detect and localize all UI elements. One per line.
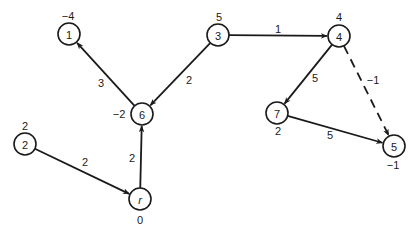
node-potential-label: −1 — [387, 159, 400, 171]
edge-4-to-7 — [285, 45, 333, 104]
node-4: 44 — [328, 11, 350, 47]
node-potential-label: 5 — [216, 11, 222, 23]
edge-3-to-4 — [229, 35, 327, 36]
node-label: 5 — [391, 141, 397, 153]
edge-weight-label: 2 — [186, 74, 192, 86]
node-potential-label: −2 — [113, 108, 126, 120]
edge-weight-label: −1 — [367, 74, 380, 86]
node-1: 1−4 — [58, 10, 80, 45]
node-label: 4 — [336, 31, 342, 43]
edge-weight-label: 5 — [312, 72, 318, 84]
edge-weight-label: 2 — [129, 152, 135, 164]
node-label: 2 — [22, 139, 28, 151]
edge-weight-label: 3 — [98, 77, 104, 89]
edge-r-to-6 — [140, 126, 141, 188]
node-potential-label: −4 — [62, 10, 75, 22]
edge-weight-label: 1 — [275, 23, 281, 35]
node-label: 3 — [215, 30, 221, 42]
node-6: 6−2 — [113, 103, 153, 125]
edge-4-to-5 — [344, 46, 389, 135]
node-2: 22 — [14, 120, 36, 155]
node-potential-label: 2 — [275, 125, 281, 137]
edge-3-to-6 — [150, 43, 210, 105]
node-potential-label: 0 — [137, 214, 143, 226]
node-7: 72 — [266, 102, 288, 137]
edges-layer — [35, 35, 389, 194]
edge-weight-label: 2 — [82, 156, 88, 168]
node-r: r0 — [129, 188, 151, 226]
edge-6-to-1 — [77, 43, 134, 106]
edge-weight-label: 5 — [327, 129, 333, 141]
node-5: 5−1 — [383, 135, 405, 171]
nodes-layer: 1−435446−272225−1r0 — [14, 10, 405, 226]
node-potential-label: 4 — [336, 11, 342, 23]
node-potential-label: 2 — [22, 120, 28, 132]
node-3: 35 — [207, 11, 229, 46]
graph-diagram: 3215−1522 1−435446−272225−1r0 — [0, 0, 416, 234]
node-label: 1 — [66, 29, 72, 41]
edge-7-to-5 — [288, 116, 383, 143]
node-label: 6 — [139, 109, 145, 121]
node-label: 7 — [274, 108, 280, 120]
